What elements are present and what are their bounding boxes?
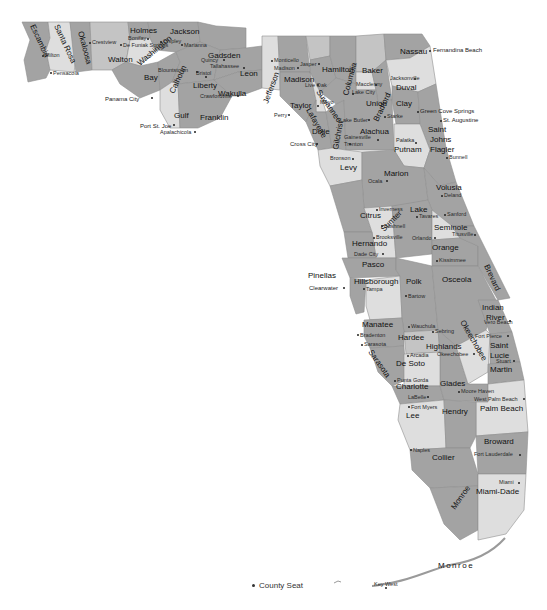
label-nassau: Nassau: [400, 47, 427, 56]
svg-text:Cross City: Cross City: [290, 141, 318, 147]
label-levy: Levy: [340, 163, 357, 172]
label-hernando: Hernando: [352, 239, 388, 248]
svg-text:Trenton: Trenton: [344, 141, 363, 147]
label-glades: Glades: [440, 379, 465, 388]
svg-text:Jasper: Jasper: [300, 61, 317, 67]
svg-text:Green Cove Springs: Green Cove Springs: [420, 108, 474, 114]
label-jackson: Jackson: [170, 27, 199, 36]
svg-text:Miami: Miami: [499, 479, 514, 485]
map-legend: County Seat: [252, 581, 303, 590]
svg-text:Moore Haven: Moore Haven: [461, 388, 494, 394]
svg-text:Titusville: Titusville: [452, 231, 473, 237]
svg-text:Monticello: Monticello: [274, 57, 299, 63]
svg-text:De Funiak Springs: De Funiak Springs: [123, 42, 168, 48]
label-citrus: Citrus: [360, 211, 381, 220]
label-flagler: Flagler: [430, 145, 455, 154]
svg-text:Lake Butler: Lake Butler: [340, 117, 368, 123]
svg-text:Pensacola: Pensacola: [53, 70, 80, 76]
svg-text:Fort Pierce: Fort Pierce: [475, 333, 502, 339]
svg-text:Deland: Deland: [444, 192, 461, 198]
label-liberty: Liberty: [193, 81, 217, 90]
label-collier: Collier: [432, 453, 455, 462]
svg-text:Orlando: Orlando: [412, 235, 432, 241]
svg-text:Milton: Milton: [45, 52, 60, 58]
label-charlotte: Charlotte: [396, 382, 429, 391]
county-monroe-mainland: [430, 486, 478, 540]
label-orange: Orange: [432, 243, 459, 252]
label-pinellas: Pinellas: [308, 271, 336, 280]
label-broward: Broward: [484, 437, 514, 446]
svg-text:Sarasota: Sarasota: [364, 341, 387, 347]
label-saint-lucie-1: Saint: [490, 341, 509, 350]
label-clay: Clay: [396, 99, 412, 108]
svg-text:Brooksville: Brooksville: [376, 234, 403, 240]
legend-label: County Seat: [259, 581, 303, 590]
svg-text:Bonifay: Bonifay: [128, 35, 147, 41]
label-hillsborough: Hillsborough: [354, 277, 398, 286]
svg-text:Crawfordville: Crawfordville: [200, 93, 232, 99]
label-leon: Leon: [240, 69, 258, 78]
svg-text:Apalachicola: Apalachicola: [160, 129, 192, 135]
label-holmes: Holmes: [130, 26, 157, 35]
svg-text:Jacksonville: Jacksonville: [390, 75, 420, 81]
county-hamilton: [306, 36, 330, 60]
svg-text:Mayo: Mayo: [320, 99, 333, 105]
label-de-soto: De Soto: [396, 359, 425, 368]
svg-text:Bushnell: Bushnell: [384, 223, 405, 229]
svg-text:Dade City: Dade City: [354, 251, 378, 257]
svg-text:Sanford: Sanford: [447, 211, 466, 217]
svg-text:Gainesville: Gainesville: [344, 134, 371, 140]
svg-text:Panama City: Panama City: [105, 96, 139, 102]
label-palm-beach: Palm Beach: [480, 404, 523, 413]
label-osceola: Osceola: [442, 275, 472, 284]
label-marion: Marion: [384, 169, 408, 178]
label-miami-dade: Miami-Dade: [476, 487, 520, 496]
svg-text:Live Oak: Live Oak: [305, 82, 327, 88]
label-volusia: Volusia: [436, 183, 462, 192]
svg-text:Bradenton: Bradenton: [360, 332, 385, 338]
svg-text:Tallahassee: Tallahassee: [210, 63, 239, 69]
svg-text:Bronson: Bronson: [330, 155, 351, 161]
svg-text:Okeechobee: Okeechobee: [437, 351, 468, 357]
label-bay: Bay: [144, 73, 158, 82]
svg-text:LaBelle: LaBelle: [408, 394, 426, 400]
svg-text:Fernandina Beach: Fernandina Beach: [433, 47, 482, 53]
label-hardee: Hardee: [398, 333, 425, 342]
label-walton: Walton: [108, 55, 133, 64]
label-indian-river-1: Indian: [482, 303, 504, 312]
svg-text:Macclenny: Macclenny: [356, 81, 383, 87]
label-saint-johns-2: Johns: [430, 135, 451, 144]
svg-text:Lake City: Lake City: [352, 89, 375, 95]
svg-text:Bunnell: Bunnell: [449, 154, 467, 160]
label-monroe-keys: Monroe: [438, 561, 474, 570]
label-baker: Baker: [362, 66, 383, 75]
label-putnam: Putnam: [394, 145, 422, 154]
label-manatee: Manatee: [362, 320, 394, 329]
svg-text:Key West: Key West: [374, 581, 398, 587]
label-lee: Lee: [406, 411, 420, 420]
label-hendry: Hendry: [442, 407, 468, 416]
svg-text:Bristol: Bristol: [196, 70, 211, 76]
svg-text:Perry: Perry: [274, 112, 287, 118]
svg-text:Kissimmee: Kissimmee: [439, 257, 466, 263]
svg-text:Fort Lauderdale: Fort Lauderdale: [474, 451, 513, 457]
svg-text:Chipley: Chipley: [163, 38, 182, 44]
svg-text:Sebring: Sebring: [435, 328, 454, 334]
label-saint-johns-1: Saint: [428, 125, 447, 134]
label-gulf: Gulf: [174, 111, 189, 120]
svg-text:Tampa: Tampa: [366, 286, 383, 292]
svg-text:Palatka: Palatka: [396, 137, 415, 143]
label-highlands: Highlands: [426, 342, 462, 351]
svg-text:Blountstown: Blountstown: [158, 67, 188, 73]
svg-text:Tavares: Tavares: [419, 213, 439, 219]
dry-tortugas: [334, 581, 341, 583]
svg-text:Wauchula: Wauchula: [411, 323, 436, 329]
label-polk: Polk: [406, 277, 423, 286]
svg-text:Starke: Starke: [387, 113, 403, 119]
svg-text:Punta Gorda: Punta Gorda: [397, 377, 429, 383]
svg-text:Vero Beach: Vero Beach: [484, 319, 512, 325]
svg-text:Marianna: Marianna: [184, 42, 208, 48]
svg-text:Madison: Madison: [274, 65, 295, 71]
svg-text:Ocala: Ocala: [368, 178, 383, 184]
label-martin: Martin: [490, 365, 512, 374]
